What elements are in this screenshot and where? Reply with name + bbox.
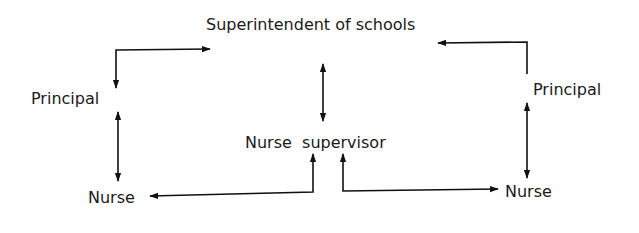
- arrow-principal-right-superintendent: [438, 42, 527, 74]
- node-nurse-right: Nurse: [505, 184, 552, 200]
- node-nurse-left: Nurse: [88, 190, 135, 206]
- arrow-nurse-supervisor-nurse-left: [150, 154, 313, 196]
- org-diagram: Superintendent of schools Principal Prin…: [0, 0, 639, 233]
- node-nurse-supervisor: Nurse supervisor: [245, 135, 386, 151]
- node-principal-left: Principal: [31, 91, 99, 107]
- arrow-principal-left-superintendent: [116, 49, 210, 88]
- arrow-nurse-supervisor-nurse-right: [343, 154, 498, 191]
- node-principal-right: Principal: [533, 82, 601, 98]
- node-superintendent: Superintendent of schools: [206, 17, 415, 33]
